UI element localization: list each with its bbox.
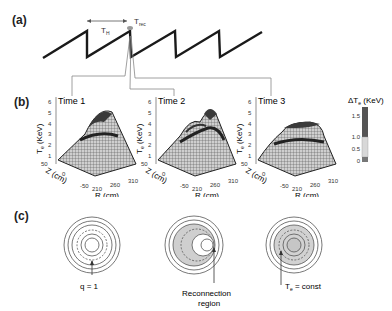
surface-plot-time-3: Time 3 1 2 3 4 5 6 50 0 -50 210 260 310 … (235, 96, 339, 197)
svg-text:5: 5 (48, 110, 52, 116)
svg-text:Time 2: Time 2 (158, 96, 185, 106)
svg-text:R (cm): R (cm) (195, 191, 219, 197)
svg-text:-50: -50 (80, 183, 89, 189)
svg-text:260: 260 (210, 182, 221, 188)
svg-text:6: 6 (248, 99, 252, 105)
th-label: TH (101, 26, 110, 36)
svg-text:310: 310 (328, 178, 339, 184)
svg-text:Te (KeV): Te (KeV) (235, 123, 245, 154)
svg-text:50: 50 (141, 161, 148, 167)
sawtooth-line (43, 31, 262, 58)
svg-text:Z (cm): Z (cm) (244, 166, 269, 186)
svg-text:6: 6 (48, 99, 52, 105)
svg-text:5: 5 (248, 110, 252, 116)
svg-text:5: 5 (148, 110, 152, 116)
svg-text:3: 3 (48, 131, 52, 137)
svg-text:2: 2 (148, 142, 152, 148)
svg-text:-50: -50 (280, 183, 289, 189)
flux-diagram-1 (64, 217, 120, 275)
surface-plot-time-1: Time 1 1 2 3 4 5 6 50 0 -50 210 260 310 … (35, 96, 139, 197)
svg-text:0: 0 (357, 158, 361, 164)
colorbar: ΔTe (KeV) 0 0.5 1.0 1.5 (348, 96, 384, 164)
svg-text:4: 4 (48, 121, 52, 127)
svg-text:Z (cm): Z (cm) (44, 166, 69, 186)
reconnection-label: Reconnection (182, 289, 231, 298)
te-const-label: Te = const (285, 282, 322, 292)
svg-text:R (cm): R (cm) (95, 191, 119, 197)
svg-text:1: 1 (148, 153, 152, 159)
svg-text:Te (KeV): Te (KeV) (35, 123, 45, 154)
svg-text:6: 6 (148, 99, 152, 105)
svg-text:1: 1 (48, 153, 52, 159)
svg-text:Z (cm): Z (cm) (144, 166, 169, 186)
svg-text:2: 2 (248, 142, 252, 148)
sawtooth-plot: TH Trec (0, 0, 392, 100)
svg-text:2: 2 (48, 142, 52, 148)
svg-text:4: 4 (248, 121, 252, 127)
svg-text:ΔTe (KeV): ΔTe (KeV) (348, 96, 384, 106)
svg-text:3: 3 (248, 131, 252, 137)
svg-text:0.5: 0.5 (352, 146, 361, 152)
svg-text:Time 1: Time 1 (58, 96, 85, 106)
svg-text:50: 50 (41, 161, 48, 167)
surface-plots: Time 1 1 2 3 4 5 6 50 0 -50 210 260 310 … (0, 92, 392, 197)
svg-text:Time 3: Time 3 (258, 96, 285, 106)
svg-text:260: 260 (310, 182, 321, 188)
svg-text:Te (KeV): Te (KeV) (135, 123, 145, 154)
surface-plot-time-2: Time 2 1 2 3 4 5 6 50 0 -50 210 260 310 … (135, 96, 239, 197)
svg-text:1: 1 (248, 153, 252, 159)
svg-text:R (cm): R (cm) (295, 191, 319, 197)
svg-text:260: 260 (110, 182, 121, 188)
region-label: region (198, 299, 220, 308)
flux-diagram-2 (165, 216, 223, 283)
trec-label: Trec (134, 17, 146, 27)
flux-surface-diagrams: q = 1 Reconnection region Te = const (0, 205, 392, 311)
svg-text:1.0: 1.0 (352, 134, 361, 140)
flux-diagram-3 (266, 217, 322, 285)
svg-text:3: 3 (148, 131, 152, 137)
svg-text:4: 4 (148, 121, 152, 127)
svg-text:-50: -50 (180, 183, 189, 189)
svg-text:1.5: 1.5 (352, 113, 361, 119)
svg-text:50: 50 (241, 161, 248, 167)
svg-text:310: 310 (228, 178, 239, 184)
q1-label: q = 1 (80, 282, 99, 291)
svg-text:310: 310 (128, 178, 139, 184)
